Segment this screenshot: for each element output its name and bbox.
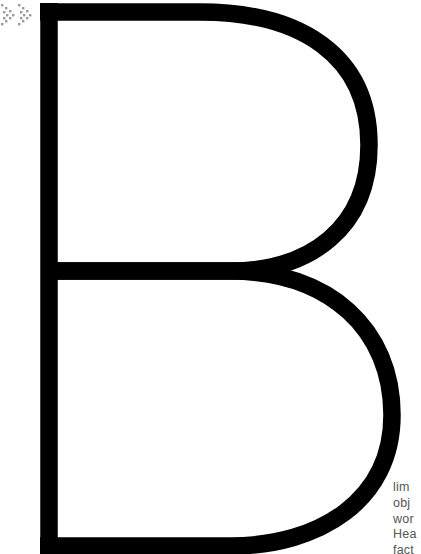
text-line: fact xyxy=(393,543,421,554)
text-line: wor xyxy=(393,512,421,528)
text-line: obj xyxy=(393,496,421,512)
text-line: lim xyxy=(393,480,421,496)
text-line: Hea xyxy=(393,527,421,543)
cropped-body-text: lim obj wor Hea fact xyxy=(393,480,421,554)
